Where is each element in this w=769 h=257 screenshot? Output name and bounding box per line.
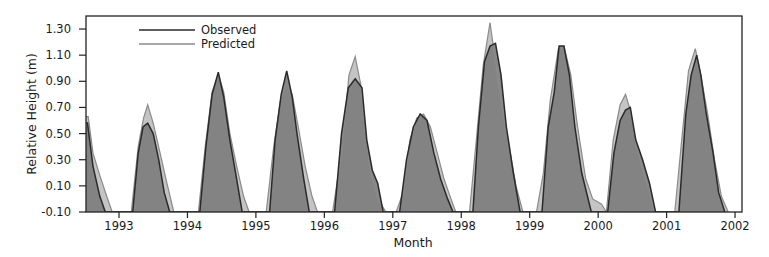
y-tick-label: -0.10 [41, 205, 71, 219]
x-tick-label: 2000 [584, 219, 613, 233]
plot-series [86, 23, 728, 213]
y-tick-label: 0.70 [45, 100, 71, 114]
y-tick-label: 0.30 [45, 153, 71, 167]
x-tick-label: 1997 [378, 219, 407, 233]
x-tick-label: 1994 [173, 219, 202, 233]
x-tick-label: 1998 [447, 219, 476, 233]
x-tick-label: 1995 [241, 219, 270, 233]
x-tick-label: 1996 [310, 219, 339, 233]
y-tick-label: 0.50 [45, 127, 71, 141]
y-axis: 1.301.100.900.700.500.300.10-0.10 [41, 22, 86, 219]
x-axis-title: Month [393, 235, 432, 250]
x-tick-label: 1993 [104, 219, 133, 233]
legend-predicted-label: Predicted [201, 37, 255, 51]
observed-area [86, 43, 725, 212]
seasonal-height-chart: 1.301.100.900.700.500.300.10-0.10 199319… [0, 0, 769, 257]
x-axis: 1993199419951996199719981999200020012002 [104, 212, 749, 233]
legend: Observed Predicted [139, 23, 256, 51]
x-tick-label: 2002 [720, 219, 749, 233]
x-tick-label: 2001 [652, 219, 681, 233]
legend-observed-label: Observed [201, 23, 256, 37]
x-tick-label: 1999 [515, 219, 544, 233]
y-tick-label: 0.90 [45, 74, 71, 88]
y-tick-label: 0.10 [45, 179, 71, 193]
y-tick-label: 1.30 [45, 22, 71, 36]
y-axis-title: Relative Height (m) [24, 53, 39, 175]
y-tick-label: 1.10 [45, 48, 71, 62]
